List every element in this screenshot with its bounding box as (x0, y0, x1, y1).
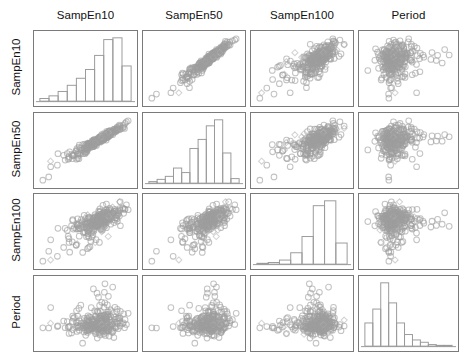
scatter-panel-sampen10-vs-sampen100 (33, 193, 138, 270)
scatterplot-matrix: SampEn10SampEn50SampEn100PeriodSampEn10S… (0, 0, 462, 364)
scatter-panel-sampen100-vs-sampen10 (250, 30, 354, 107)
histogram-panel-sampen50 (142, 112, 246, 189)
scatter-panel-sampen10-vs-sampen50 (33, 112, 138, 189)
column-label-period: Period (358, 9, 459, 21)
row-label-sampen100: SampEn100 (10, 189, 22, 271)
row-label-sampen10: SampEn10 (10, 26, 22, 108)
scatter-panel-period-vs-sampen10 (358, 30, 459, 107)
row-label-period: Period (10, 271, 22, 353)
scatter-panel-period-vs-sampen50 (358, 112, 459, 189)
row-label-sampen50: SampEn50 (10, 108, 22, 190)
scatter-panel-sampen50-vs-period (142, 275, 246, 352)
column-label-sampen100: SampEn100 (250, 9, 354, 21)
histogram-panel-sampen10 (33, 30, 138, 107)
scatter-panel-period-vs-sampen100 (358, 193, 459, 270)
scatter-panel-sampen50-vs-sampen100 (142, 193, 246, 270)
column-label-sampen50: SampEn50 (142, 9, 246, 21)
column-label-sampen10: SampEn10 (33, 9, 138, 21)
histogram-panel-sampen100 (250, 193, 354, 270)
scatter-panel-sampen100-vs-sampen50 (250, 112, 354, 189)
scatter-panel-sampen100-vs-period (250, 275, 354, 352)
scatter-panel-sampen50-vs-sampen10 (142, 30, 246, 107)
scatter-panel-sampen10-vs-period (33, 275, 138, 352)
histogram-panel-period (358, 275, 459, 352)
